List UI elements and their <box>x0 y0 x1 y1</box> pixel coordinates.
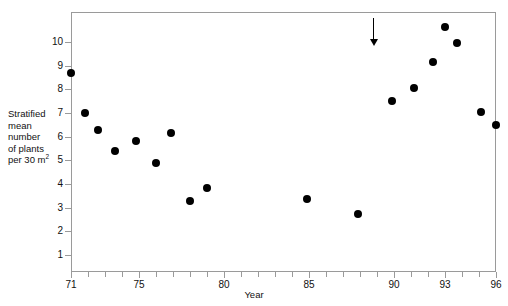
x-axis-tick <box>445 272 446 278</box>
y-axis-tick-label-text: 8 <box>35 84 63 94</box>
data-point <box>354 210 362 218</box>
y-axis-title-line-3: number <box>8 131 40 142</box>
x-axis-tick <box>275 272 276 277</box>
x-axis-tick <box>190 272 191 277</box>
y-axis-title-line-4: of plants <box>8 143 44 154</box>
x-axis-tick <box>360 272 361 277</box>
x-axis-tick <box>224 272 225 278</box>
y-axis-title-unit: per 30 m <box>8 154 46 165</box>
x-axis-tick <box>88 272 89 277</box>
x-axis-tick <box>411 272 412 277</box>
arrow-head <box>370 39 378 46</box>
y-axis-tick <box>65 42 71 43</box>
y-axis-tick <box>65 184 71 185</box>
y-axis-tick-label-text: 4 <box>35 179 63 189</box>
x-axis-tick <box>496 272 497 278</box>
data-point <box>67 69 75 77</box>
x-axis-tick <box>156 272 157 277</box>
arrow-shaft <box>373 18 374 38</box>
data-point <box>111 147 119 155</box>
x-axis-tick <box>71 272 72 278</box>
y-axis-title-line-1: Stratified <box>8 108 46 119</box>
x-axis-tick <box>105 272 106 277</box>
x-axis-title: Year <box>0 289 508 300</box>
y-axis-tick <box>65 231 71 232</box>
data-point <box>94 126 102 134</box>
x-axis-tick <box>479 272 480 277</box>
x-axis-tick <box>326 272 327 277</box>
y-axis-tick <box>65 255 71 256</box>
y-axis-tick <box>65 89 71 90</box>
data-point <box>152 159 160 167</box>
data-point <box>441 23 449 31</box>
x-axis-tick <box>292 272 293 277</box>
x-axis-tick <box>309 272 310 278</box>
data-point <box>186 197 194 205</box>
y-axis-title: Stratified mean number of plants per 30 … <box>8 108 68 166</box>
y-axis-tick-label-text: 2 <box>35 226 63 236</box>
y-axis-tick-label-text: 1 <box>35 250 63 260</box>
x-axis-tick <box>343 272 344 277</box>
x-axis-tick <box>122 272 123 277</box>
y-axis-tick <box>65 208 71 209</box>
x-axis-tick <box>241 272 242 277</box>
x-axis-tick <box>173 272 174 277</box>
y-axis-tick-label-text: 9 <box>35 61 63 71</box>
data-point <box>81 109 89 117</box>
x-axis-tick <box>139 272 140 278</box>
x-axis-tick <box>377 272 378 277</box>
data-point <box>132 137 140 145</box>
x-axis-tick <box>207 272 208 277</box>
scatter-plot-figure: 10987654321 71758085909396 Stratified me… <box>0 0 508 306</box>
y-axis-title-line-2: mean <box>8 120 32 131</box>
x-axis-tick <box>394 272 395 278</box>
x-axis-tick <box>462 272 463 277</box>
y-axis-tick-label-text: 3 <box>35 203 63 213</box>
down-arrow-annotation-icon <box>368 18 380 45</box>
x-axis-tick <box>258 272 259 277</box>
x-axis-tick <box>428 272 429 277</box>
y-axis-tick <box>65 66 71 67</box>
data-point <box>477 108 485 116</box>
data-point <box>492 121 500 129</box>
y-axis-title-unit-exponent: 2 <box>46 153 50 160</box>
data-point <box>203 184 211 192</box>
y-axis-tick-label-text: 10 <box>35 37 63 47</box>
